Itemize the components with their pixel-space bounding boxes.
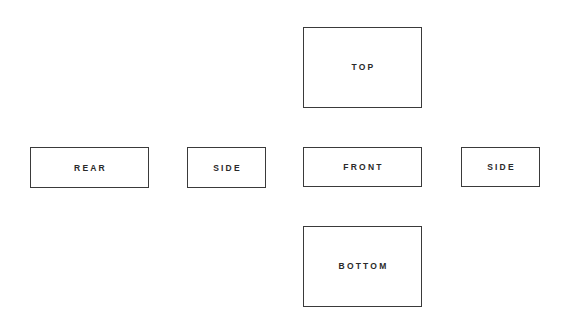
left-side-view-box: SIDE <box>187 147 266 188</box>
bottom-view-box: BOTTOM <box>303 226 422 307</box>
right-side-view-box: SIDE <box>461 147 540 187</box>
top-view-label: TOP <box>350 62 376 72</box>
front-view-label: FRONT <box>341 162 383 172</box>
right-side-view-label: SIDE <box>485 162 516 172</box>
projection-diagram: TOP REAR SIDE FRONT SIDE BOTTOM <box>0 0 563 320</box>
left-side-view-label: SIDE <box>211 163 242 173</box>
front-view-box: FRONT <box>303 147 422 187</box>
rear-view-label: REAR <box>72 163 107 173</box>
top-view-box: TOP <box>303 27 422 108</box>
rear-view-box: REAR <box>30 147 149 188</box>
bottom-view-label: BOTTOM <box>337 261 389 271</box>
